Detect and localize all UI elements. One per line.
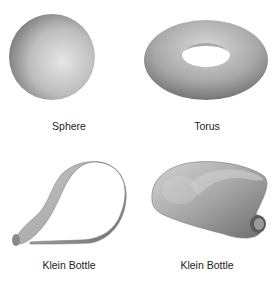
sphere-label: Sphere bbox=[0, 120, 138, 132]
klein-bottle-label-1: Klein Bottle bbox=[0, 259, 138, 271]
klein-bottle-label-2: Klein Bottle bbox=[138, 259, 276, 271]
shapes-illustration bbox=[0, 0, 276, 281]
klein-bottle-shape-2 bbox=[152, 162, 267, 238]
klein-bottle-shape-1 bbox=[12, 162, 126, 246]
torus-label: Torus bbox=[138, 120, 276, 132]
sphere-shape bbox=[9, 14, 95, 100]
torus-shape bbox=[144, 20, 268, 100]
